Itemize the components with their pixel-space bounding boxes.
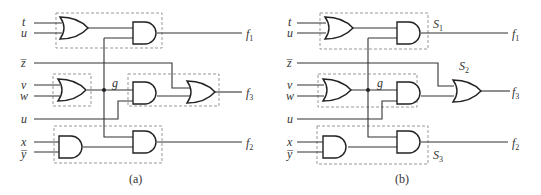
and-gate-1: [133, 22, 156, 44]
output-label-f2: f2: [512, 136, 519, 152]
output-label-f3: f3: [512, 85, 519, 101]
wire-x-y: [34, 142, 60, 152]
and-gate-2: [397, 82, 420, 104]
node-label-g: g: [377, 76, 383, 90]
panel-a: t u z̅ v w u x y̅ g: [20, 13, 253, 186]
node-label-g: g: [112, 76, 118, 90]
junction-dot: [366, 88, 370, 92]
and-gate-2: [133, 82, 156, 104]
or-gate-2: [58, 79, 86, 101]
or-gate-1: [325, 17, 353, 39]
caption-b: (b): [395, 172, 409, 186]
wire-u2: [297, 101, 397, 119]
input-label-u: u: [287, 26, 293, 40]
or-gate-1: [60, 17, 88, 39]
junction-dot: [102, 88, 106, 92]
input-label-u: u: [21, 26, 27, 40]
and-gate-3: [323, 136, 346, 158]
or-gate-3: [187, 81, 215, 103]
output-label-f1: f1: [512, 27, 519, 43]
input-label-z-bar: z̅: [286, 56, 293, 70]
input-label-u2: u: [287, 112, 293, 126]
and-gate-4: [397, 131, 420, 153]
and-gate-1: [397, 22, 420, 44]
caption-a: (a): [129, 172, 142, 186]
wire-u2: [34, 101, 133, 119]
and-gate-3: [59, 136, 82, 158]
output-label-f1: f1: [246, 27, 253, 43]
input-label-y-bar: y̅: [286, 147, 293, 161]
wire-t-u: [297, 23, 326, 33]
and-gate-4: [133, 131, 156, 153]
subsystem-label-s2: S2: [459, 59, 469, 75]
output-label-f2: f2: [246, 136, 253, 152]
input-label-u2: u: [21, 112, 27, 126]
subsystem-label-s3: S3: [433, 148, 443, 164]
input-label-w: w: [286, 89, 294, 103]
input-label-z-bar: z̅: [20, 56, 27, 70]
output-label-f3: f3: [246, 86, 253, 102]
input-label-w: w: [20, 89, 28, 103]
or-gate-3: [453, 80, 481, 102]
subsystem-label-s1: S1: [433, 17, 443, 33]
input-label-y-bar: y̅: [20, 147, 27, 161]
panel-b: t u z̅ v w u x y̅ g S1 S2 S3: [286, 13, 519, 186]
logic-circuit-figure: t u z̅ v w u x y̅ g: [0, 0, 541, 195]
wire-x-y: [297, 142, 324, 152]
wire-v-w: [297, 85, 324, 96]
wire-g-bus: [104, 38, 133, 137]
wire-t-u: [34, 23, 62, 33]
or-gate-2: [323, 79, 351, 101]
wire-v-w: [34, 85, 60, 96]
